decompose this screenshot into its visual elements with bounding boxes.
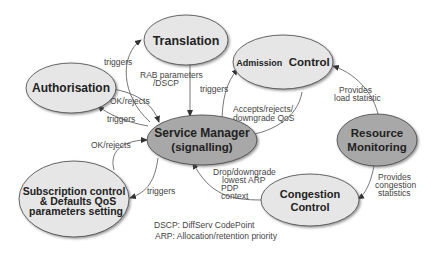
node-service-manager: Service Manager (signalling) (147, 115, 257, 165)
node-subscription-line3: parameters setting (29, 205, 123, 217)
legend-arp: ARP: Allocation/retention priority (155, 231, 278, 241)
edge-label-sm-admission: triggers (200, 84, 228, 94)
node-service-manager-line1: Service Manager (154, 126, 250, 140)
node-admission-label-small: Admission (236, 58, 282, 68)
edge-label-sm-sub: triggers (147, 186, 175, 196)
edge-label-congestion-sm-4: context (221, 191, 249, 201)
edge-label-admission-sm-2: downgrade QoS (233, 113, 295, 123)
qos-architecture-diagram: triggers RAB parameters /DSCP OK/rejects… (0, 0, 431, 257)
node-admission-control: Admission Control (233, 35, 333, 89)
node-admission-label-large: Control (289, 56, 330, 68)
node-congestion-line2: Control (290, 201, 329, 213)
node-resource-monitoring: Resource Monitoring (337, 114, 417, 166)
edge-label-sm-auth: triggers (107, 114, 135, 124)
legend-dscp: DSCP: DiffServ CodePoint (154, 220, 255, 230)
node-authorisation: Authorisation (26, 63, 116, 113)
legend: DSCP: DiffServ CodePoint ARP: Allocation… (154, 220, 278, 241)
edge-label-auth-sm: OK/rejects (110, 96, 150, 106)
node-translation-label: Translation (153, 34, 220, 48)
edge-label-sm-translation: triggers (104, 57, 132, 67)
edge-sm-to-translation (126, 40, 150, 122)
node-resource-monitoring-line2: Monitoring (347, 141, 406, 153)
edge-label-sub-sm: OK/rejects (91, 140, 131, 150)
node-service-manager-line2: (signalling) (171, 141, 233, 153)
edge-label-resmon-congestion-3: statistics (378, 188, 411, 198)
node-translation: Translation (144, 15, 228, 65)
edge-label-resmon-admission-2: load statistic (334, 93, 382, 103)
node-congestion-line1: Congestion (280, 188, 341, 200)
node-subscription-control: Subscription control & Defaults QoS para… (19, 161, 129, 237)
node-resource-monitoring-line1: Resource (351, 127, 403, 139)
edge-label-translation-sm-2: /DSCP (153, 78, 179, 88)
node-congestion-control: Congestion Control (261, 174, 359, 226)
node-authorisation-label: Authorisation (32, 81, 110, 95)
